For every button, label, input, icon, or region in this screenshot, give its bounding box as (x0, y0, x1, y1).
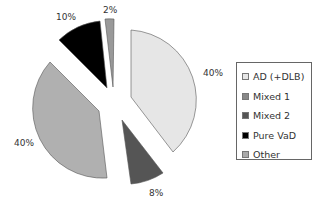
label-other: 2% (103, 5, 117, 15)
swatch-purevad (242, 132, 249, 139)
legend-item-mixed1: Mixed 1 (242, 87, 311, 107)
swatch-other (242, 151, 249, 158)
slice-mixed1 (33, 62, 107, 178)
legend-item-purevad: Pure VaD (242, 126, 311, 146)
legend-item-ad: AD (+DLB) (242, 67, 311, 87)
legend: AD (+DLB) Mixed 1 Mixed 2 Pure VaD Other (236, 62, 312, 160)
swatch-mixed2 (242, 112, 249, 119)
label-purevad: 10% (56, 12, 76, 22)
slice-other (105, 19, 114, 87)
swatch-ad (242, 73, 249, 80)
legend-item-other: Other (242, 145, 311, 165)
legend-item-mixed2: Mixed 2 (242, 106, 311, 126)
swatch-mixed1 (242, 93, 249, 100)
label-mixed1: 40% (14, 138, 34, 148)
label-ad: 40% (203, 68, 223, 78)
slice-ad (131, 30, 196, 152)
label-mixed2: 8% (149, 188, 163, 198)
